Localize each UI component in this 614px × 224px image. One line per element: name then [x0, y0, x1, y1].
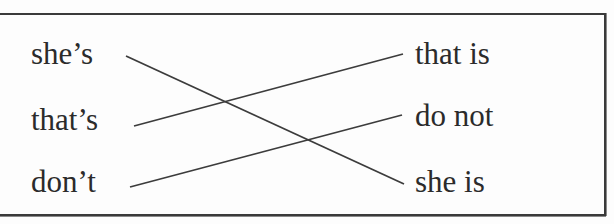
matching-lines	[0, 0, 614, 224]
match-line-shes-she-is	[126, 56, 404, 184]
match-line-thats-that-is	[134, 54, 403, 126]
match-line-dont-do-not	[130, 115, 402, 187]
